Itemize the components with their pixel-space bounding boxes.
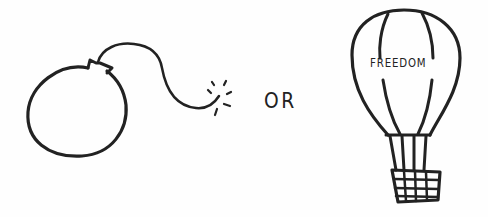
drawing <box>0 0 488 217</box>
bomb-icon <box>28 44 219 157</box>
illustration-canvas: OR FREEDOM <box>0 0 488 217</box>
spark-icon <box>208 81 231 115</box>
or-label: OR <box>264 88 297 113</box>
hot-air-balloon-icon <box>352 10 460 202</box>
balloon-freedom-label: FREEDOM <box>370 56 426 70</box>
